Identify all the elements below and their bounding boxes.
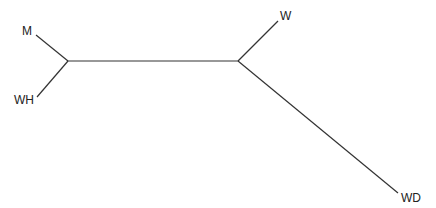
edge-internal-to-wd bbox=[238, 61, 398, 193]
tree-diagram: M WH W WD bbox=[0, 0, 436, 208]
leaf-label-wd: WD bbox=[401, 191, 421, 205]
leaf-label-m: M bbox=[22, 24, 32, 38]
edge-internal-to-w bbox=[238, 21, 278, 61]
edge-internal-to-wh bbox=[37, 61, 68, 97]
leaf-label-w: W bbox=[280, 9, 292, 23]
edge-internal-to-m bbox=[36, 35, 68, 61]
leaf-label-wh: WH bbox=[14, 93, 34, 107]
